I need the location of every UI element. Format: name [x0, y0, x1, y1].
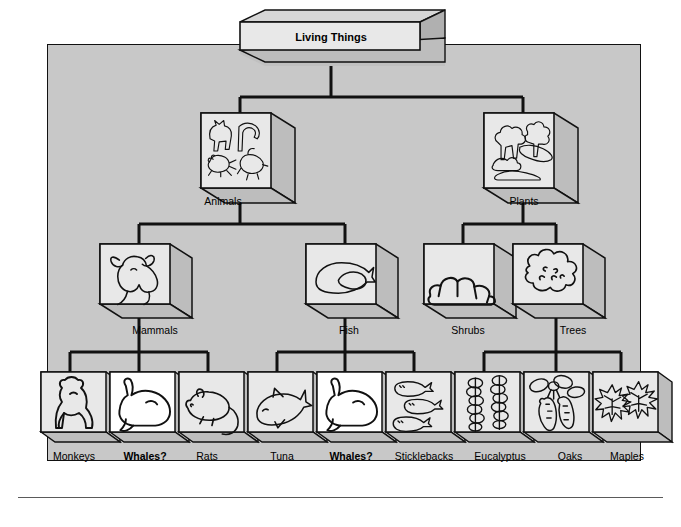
leaf-label-maples: Maples	[610, 451, 644, 462]
node-fish[interactable]	[306, 244, 398, 318]
leaf-label-monkeys: Monkeys	[53, 451, 95, 462]
root-label: Living Things	[295, 31, 367, 43]
leaf-maples[interactable]	[593, 372, 672, 442]
leaf-label-sticklebacks: Sticklebacks	[395, 451, 453, 462]
leaf-label-rats: Rats	[196, 451, 218, 462]
node-label-animals: Animals	[204, 196, 241, 207]
leaf-label-eucalyptus: Eucalyptus	[474, 451, 525, 462]
node-animals[interactable]	[201, 113, 295, 203]
node-trees[interactable]	[513, 244, 605, 318]
node-label-shrubs: Shrubs	[451, 325, 484, 336]
leaf-label-oaks: Oaks	[558, 451, 583, 462]
node-plants[interactable]	[484, 113, 578, 203]
node-mammals[interactable]	[100, 244, 192, 318]
footer-rule	[18, 497, 663, 498]
node-label-plants: Plants	[509, 196, 538, 207]
leaf-label-whales-fish: Whales?	[329, 451, 372, 462]
diagram-page: Living Things Animals Plants Mammals Fis…	[0, 0, 681, 527]
diagram-canvas	[0, 0, 681, 527]
leaf-label-whales-mammals: Whales?	[123, 451, 166, 462]
node-shrubs[interactable]	[424, 244, 516, 318]
leaf-label-tuna: Tuna	[270, 451, 294, 462]
node-label-fish: Fish	[339, 325, 359, 336]
node-label-mammals: Mammals	[132, 325, 178, 336]
node-label-trees: Trees	[560, 325, 586, 336]
